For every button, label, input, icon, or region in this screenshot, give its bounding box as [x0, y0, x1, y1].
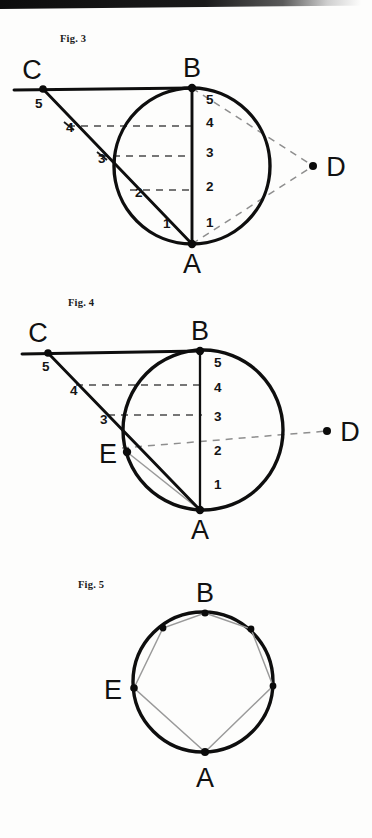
point-label-D: D — [326, 152, 346, 182]
figure-4-circle — [123, 350, 283, 510]
point-label-D: D — [340, 417, 360, 447]
diameter-number-1: 1 — [206, 215, 214, 230]
point-A-dot — [196, 506, 204, 514]
figure-4: Fig. 4 C B D E A 5 4 3 2 1 — [0, 285, 372, 555]
ca-number-3: 3 — [98, 151, 106, 166]
point-E-dot — [130, 684, 138, 692]
point-label-A: A — [183, 249, 201, 279]
point-D-dot — [323, 427, 331, 435]
figure-4-caption: Fig. 4 — [68, 297, 95, 308]
diameter-number-4: 4 — [214, 380, 222, 395]
line-C-to-A — [48, 353, 200, 510]
diameter-number-3: 3 — [214, 409, 222, 424]
point-C-dot — [39, 85, 47, 93]
ca-number-1: 1 — [163, 216, 171, 231]
diameter-number-4: 4 — [206, 115, 214, 130]
ca-number-4: 4 — [66, 120, 74, 135]
figure-3-caption: Fig. 3 — [60, 33, 86, 44]
ca-number-3: 3 — [100, 412, 108, 427]
diameter-number-1: 1 — [214, 477, 222, 492]
point-A-dot — [188, 240, 196, 248]
dashed-line-A-to-D — [192, 166, 313, 244]
point-label-C: C — [28, 318, 48, 348]
diameter-number-5: 5 — [206, 92, 214, 107]
figure-3: Fig. 3 C B D A — [0, 0, 372, 290]
point-label-A: A — [191, 515, 209, 545]
point-label-A: A — [196, 763, 214, 793]
ca-number-5: 5 — [35, 96, 43, 111]
ca-number-4: 4 — [70, 383, 78, 398]
figure-5-caption: Fig. 5 — [78, 579, 104, 590]
diameter-number-2: 2 — [214, 443, 222, 458]
point-B-dot — [196, 347, 204, 355]
point-E-dot — [123, 448, 131, 456]
point-B-dot — [188, 84, 196, 92]
diameter-number-5: 5 — [214, 355, 222, 370]
point-D-dot — [309, 162, 317, 170]
point-B-dot — [201, 609, 208, 616]
point-label-E: E — [99, 439, 117, 469]
diameter-number-2: 2 — [206, 179, 214, 194]
ca-number-5: 5 — [42, 359, 50, 374]
hexagon-vertex-dot-6 — [160, 625, 167, 632]
point-label-B: B — [183, 53, 201, 83]
point-label-E: E — [104, 675, 122, 705]
hexagon-vertex-dot-2 — [248, 626, 255, 633]
scanned-page: Fig. 3 C B D A — [0, 0, 372, 838]
ca-number-2: 2 — [135, 185, 143, 200]
point-label-B: B — [191, 316, 209, 346]
dashed-line-E-to-D — [122, 431, 327, 448]
point-label-B: B — [196, 578, 214, 608]
point-C-dot — [44, 349, 52, 357]
figure-5: Fig. 5 B E A — [0, 565, 372, 830]
hexagon-vertex-dot-3 — [270, 683, 277, 690]
diameter-number-3: 3 — [206, 145, 214, 160]
point-label-C: C — [22, 55, 42, 85]
point-A-dot — [201, 748, 209, 756]
